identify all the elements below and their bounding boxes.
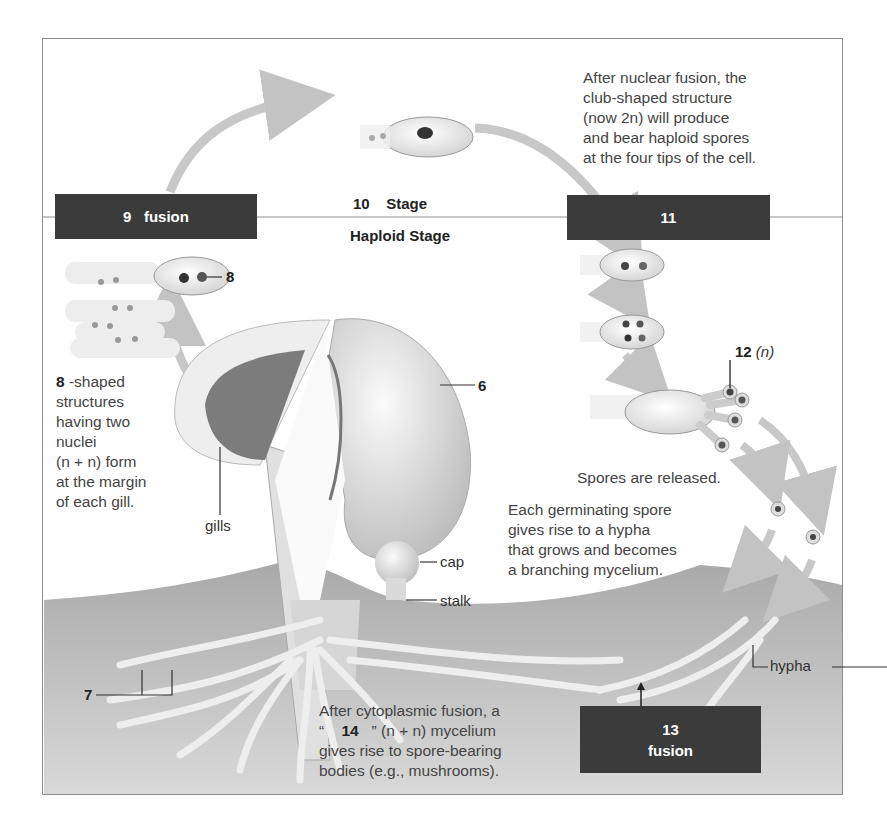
germinating-caption: Each germinating spore gives rise to a h… (508, 500, 677, 580)
label-8: 8 (226, 268, 234, 285)
label-6: 6 (478, 377, 486, 394)
label-7: 7 (84, 686, 92, 703)
box-13-fusion: 13 fusion (580, 706, 761, 773)
label-gills: gills (205, 517, 231, 534)
stage-10-title: 10 Stage (330, 195, 450, 212)
nuclear-fusion-caption: After nuclear fusion, the club-shaped st… (583, 68, 756, 168)
dikaryotic-cells (65, 257, 230, 358)
label-12: 12 (n) (735, 343, 774, 360)
haploid-stage-title: Haploid Stage (330, 227, 470, 244)
mushroom-cap (325, 319, 470, 560)
box-11: 11 (567, 195, 770, 240)
arrow-to-stage10 (170, 100, 300, 192)
spores-released-caption: Spores are released. (577, 468, 721, 488)
club-shaped-caption: 8 -shaped structures having two nuclei (… (56, 372, 146, 512)
label-cap: cap (440, 553, 464, 570)
box-9-fusion: 9 fusion (55, 194, 257, 239)
label-stalk: stalk (440, 592, 471, 609)
cytoplasmic-fusion-caption: After cytoplasmic fusion, a “ 14 ” (n + … (319, 701, 502, 781)
label-hypha: hypha (770, 657, 811, 674)
